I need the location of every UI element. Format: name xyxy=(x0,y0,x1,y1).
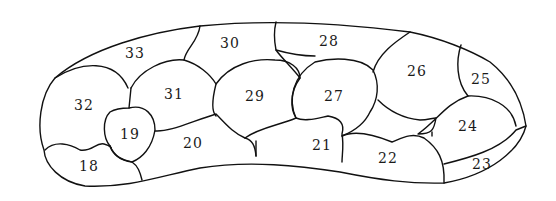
region-label-31: 31 xyxy=(164,86,184,102)
region-label-32: 32 xyxy=(74,97,94,113)
region-label-20: 20 xyxy=(183,135,203,151)
region-label-33: 33 xyxy=(125,45,145,61)
region-diagram: 18 19 20 21 22 23 24 25 26 27 28 29 30 3… xyxy=(0,0,556,201)
region-label-23: 23 xyxy=(472,156,492,172)
region-label-28: 28 xyxy=(319,33,339,49)
region-label-21: 21 xyxy=(312,137,332,153)
region-label-29: 29 xyxy=(245,88,265,104)
region-label-25: 25 xyxy=(471,71,491,87)
region-label-30: 30 xyxy=(220,35,240,51)
region-label-26: 26 xyxy=(407,63,427,79)
region-label-19: 19 xyxy=(120,126,140,142)
region-label-24: 24 xyxy=(458,118,478,134)
region-label-27: 27 xyxy=(324,88,344,104)
region-label-22: 22 xyxy=(378,150,398,166)
region-label-18: 18 xyxy=(79,158,99,174)
